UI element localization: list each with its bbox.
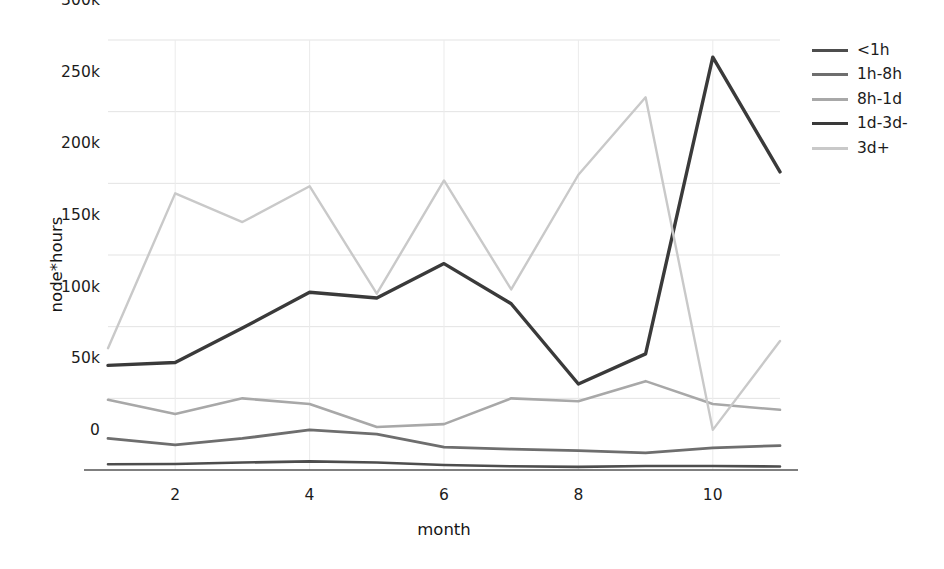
legend-line-icon — [812, 122, 848, 125]
legend-line-icon — [812, 98, 848, 101]
plot-area — [108, 40, 780, 470]
x-axis-ticks: 246810 — [108, 486, 780, 510]
y-tick-label: 300k — [61, 0, 100, 9]
x-tick-label: 8 — [573, 486, 583, 504]
legend-line-icon — [812, 147, 848, 150]
legend-item-label: 1d-3d- — [857, 116, 908, 132]
legend-item[interactable]: 3d+ — [812, 136, 940, 161]
x-tick-label: 6 — [439, 486, 449, 504]
chart-legend: <1h1h-8h8h-1d1d-3d-3d+ — [812, 38, 940, 161]
legend-item[interactable]: 1h-8h — [812, 63, 940, 88]
legend-item[interactable]: 8h-1d — [812, 87, 940, 112]
x-axis-title: month — [108, 520, 780, 539]
legend-item[interactable]: 1d-3d- — [812, 112, 940, 137]
legend-item-label: 8h-1d — [857, 92, 902, 108]
y-tick-label: 200k — [61, 134, 100, 152]
y-axis-title: node*hours — [47, 165, 66, 365]
legend-item[interactable]: <1h — [812, 38, 940, 63]
legend-item-label: 1h-8h — [857, 67, 902, 83]
y-tick-label: 100k — [61, 278, 100, 296]
chart-figure: 050k100k150k200k250k300k 246810 node*hou… — [0, 0, 944, 569]
y-tick-label: 250k — [61, 63, 100, 81]
y-tick-label: 150k — [61, 206, 100, 224]
x-tick-label: 2 — [170, 486, 180, 504]
y-tick-label: 0 — [90, 421, 100, 439]
legend-item-label: <1h — [857, 43, 890, 59]
legend-item-label: 3d+ — [857, 141, 890, 157]
legend-line-icon — [812, 49, 848, 52]
x-tick-label: 10 — [703, 486, 723, 504]
y-tick-label: 50k — [71, 349, 100, 367]
x-tick-label: 4 — [305, 486, 315, 504]
legend-line-icon — [812, 73, 848, 76]
